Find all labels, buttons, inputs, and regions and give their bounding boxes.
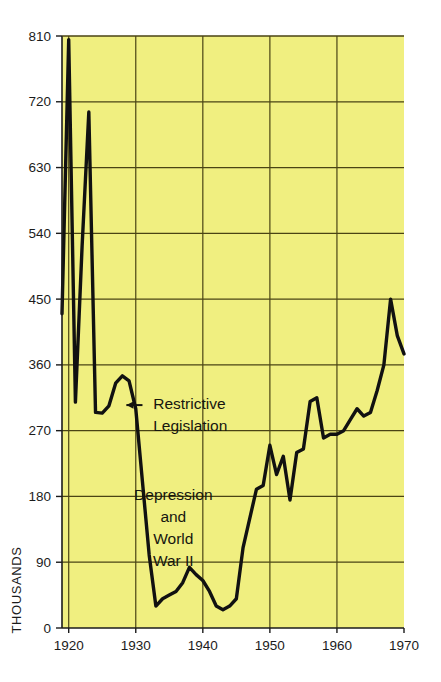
annotation-line: Depression xyxy=(134,486,212,503)
y-axis-tick-label: 180 xyxy=(28,489,51,504)
y-axis-tick-label: 630 xyxy=(28,160,51,175)
y-axis-tick-label: 270 xyxy=(28,423,51,438)
x-axis-tick-label: 1930 xyxy=(121,638,151,653)
y-axis-tick-label: 810 xyxy=(28,29,51,44)
chart-canvas: 192019301940195019601970 090180270360450… xyxy=(0,0,441,682)
y-axis-tick-label: 0 xyxy=(43,621,51,636)
y-axis-tick-label: 720 xyxy=(28,94,51,109)
annotation-line: and xyxy=(160,508,186,525)
annotation-line: War II xyxy=(153,552,194,569)
y-axis-tick-label: 360 xyxy=(28,357,51,372)
y-axis-tick-label: 540 xyxy=(28,226,51,241)
annotation-line: World xyxy=(153,530,193,547)
y-axis-tick-label: 450 xyxy=(28,292,51,307)
chart-figure: 192019301940195019601970 090180270360450… xyxy=(0,0,441,682)
annotation-line: Legislation xyxy=(153,417,227,434)
x-axis-tick-label: 1960 xyxy=(322,638,352,653)
x-axis-tick-label: 1920 xyxy=(54,638,84,653)
x-axis-tick-label: 1950 xyxy=(255,638,285,653)
x-axis-tick-label: 1970 xyxy=(389,638,419,653)
y-axis-title: THOUSANDS xyxy=(9,546,24,633)
x-axis-tick-label: 1940 xyxy=(188,638,218,653)
plot-area-background xyxy=(62,36,404,628)
annotation-line: Restrictive xyxy=(153,395,225,412)
y-axis-tick-label: 90 xyxy=(36,555,51,570)
